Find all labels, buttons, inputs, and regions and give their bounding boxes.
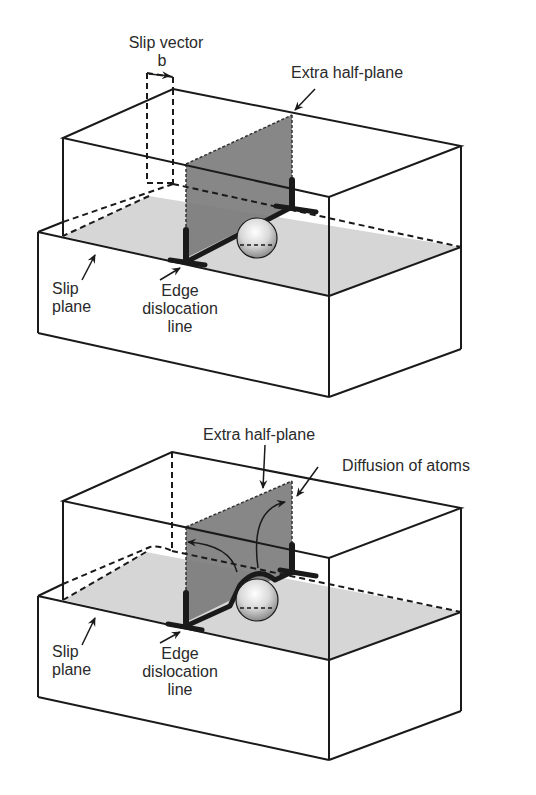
atom-sphere [236,579,278,621]
slip-plane-label-line1: Slip [52,280,79,298]
extra-half-plane-label: Extra half-plane [192,426,326,444]
slip-plane-label-line2: plane [52,661,91,679]
burgers-vector-b-label: b [152,52,172,70]
edge-dislocation-label-line3: line [130,681,230,699]
extra-half-plane-label: Extra half-plane [280,64,414,82]
atom-sphere [237,218,277,258]
edge-dislocation-label-line2: dislocation [130,663,230,681]
bottom-panel [38,445,461,760]
top-panel [38,73,461,397]
edge-dislocation-label-line1: Edge [130,645,230,663]
edge-dislocation-label-line2: dislocation [130,300,230,318]
slip-plane-label-line2: plane [52,298,91,316]
slip-plane-label-line1: Slip [52,643,79,661]
edge-dislocation-label-line1: Edge [130,282,230,300]
edge-dislocation-label-line3: line [130,318,230,336]
diffusion-of-atoms-label: Diffusion of atoms [328,457,484,475]
slip-vector-label: Slip vector [118,34,214,52]
